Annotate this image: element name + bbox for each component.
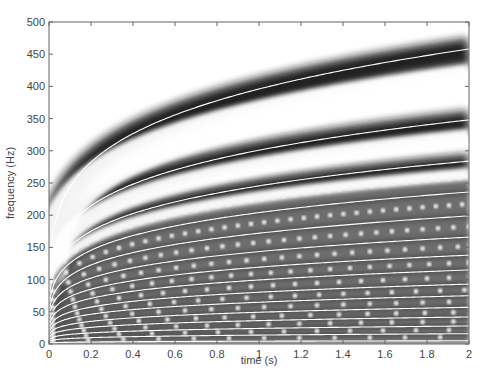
harmonic-dot [447, 328, 452, 333]
harmonic-dot [282, 329, 287, 334]
x-tick-label: 0.8 [209, 348, 224, 360]
harmonic-dot [456, 244, 461, 249]
harmonic-dot [438, 288, 443, 293]
harmonic-dot [414, 179, 419, 184]
y-tick-label: 0 [39, 338, 45, 350]
harmonic-dot [196, 298, 201, 303]
harmonic-dot [269, 271, 274, 276]
harmonic-dot [337, 187, 342, 192]
harmonic-dot [315, 253, 320, 258]
harmonic-dot [403, 180, 408, 185]
harmonic-dot [269, 294, 274, 299]
y-tick-label: 500 [27, 16, 45, 28]
harmonic-dot [403, 335, 408, 340]
harmonic-dot [71, 297, 76, 302]
harmonic-dot [365, 291, 370, 296]
y-tick-label: 250 [27, 177, 45, 189]
harmonic-dot [77, 317, 82, 322]
harmonic-dot [365, 312, 370, 317]
harmonic-dot [227, 286, 232, 291]
x-axis-label: time (s) [241, 354, 278, 366]
x-tick-label: 1.2 [293, 348, 308, 360]
harmonic-dot [170, 279, 175, 284]
harmonic-dot [112, 262, 117, 267]
harmonic-dot [315, 214, 320, 219]
harmonic-dot [128, 223, 133, 228]
harmonic-dot [251, 314, 256, 319]
harmonic-dot [359, 321, 364, 326]
harmonic-dot [436, 177, 441, 182]
harmonic-dot [161, 291, 166, 296]
harmonic-dot [249, 284, 254, 289]
harmonic-dot [293, 192, 298, 197]
harmonic-dot [236, 223, 241, 228]
harmonic-dot [282, 194, 287, 199]
harmonic-dot [297, 254, 302, 259]
harmonic-dot [381, 278, 386, 283]
harmonic-dot [354, 211, 359, 216]
harmonic-dot [275, 218, 280, 223]
harmonic-dot [161, 214, 166, 219]
harmonic-dot [308, 313, 313, 318]
harmonic-dot [271, 283, 276, 288]
harmonic-dot [390, 320, 395, 325]
harmonic-dot [293, 282, 298, 287]
harmonic-dot [75, 311, 80, 316]
harmonic-dot [368, 265, 373, 270]
harmonic-dot [227, 336, 232, 341]
harmonic-dot [368, 335, 373, 340]
harmonic-dot [447, 261, 452, 266]
harmonic-dot [328, 321, 333, 326]
spectrogram-chart: 00.20.40.60.811.21.41.61.82 050100150200… [0, 0, 487, 385]
harmonic-dot [117, 227, 122, 232]
harmonic-dot [205, 287, 210, 292]
harmonic-dot [216, 330, 221, 335]
harmonic-dot [174, 266, 179, 271]
harmonic-dot [196, 229, 201, 234]
harmonic-dot [280, 314, 285, 319]
harmonic-dot [222, 225, 227, 230]
harmonic-dot [403, 247, 408, 252]
harmonic-dot [394, 311, 399, 316]
harmonic-dot [189, 248, 194, 253]
harmonic-dot [313, 235, 318, 240]
harmonic-dot [183, 231, 188, 236]
y-tick-label: 50 [33, 306, 45, 318]
harmonic-dot [368, 249, 373, 254]
harmonic-dot [427, 262, 432, 267]
harmonic-dot [150, 331, 155, 336]
harmonic-dot [121, 274, 126, 279]
harmonic-dot [205, 323, 210, 328]
harmonic-dot [150, 281, 155, 286]
harmonic-dot [189, 277, 194, 282]
harmonic-dot [220, 244, 225, 249]
harmonic-dot [106, 231, 111, 236]
harmonic-dot [128, 259, 133, 264]
harmonic-dot [183, 331, 188, 336]
harmonic-dot [304, 191, 309, 196]
harmonic-dot [332, 336, 337, 341]
harmonic-dot [328, 213, 333, 218]
harmonic-dot [315, 329, 320, 334]
harmonic-dot [462, 288, 467, 293]
harmonic-dot [390, 290, 395, 295]
harmonic-dot [381, 208, 386, 213]
harmonic-dot [79, 323, 84, 328]
harmonic-dot [381, 328, 386, 333]
harmonic-dot [236, 323, 241, 328]
harmonic-dot [192, 263, 197, 268]
harmonic-dot [236, 242, 241, 247]
harmonic-dot [84, 241, 89, 246]
harmonic-dot [326, 188, 331, 193]
harmonic-dot [249, 272, 254, 277]
harmonic-dot [315, 281, 320, 286]
harmonic-dot [174, 324, 179, 329]
harmonic-dot [403, 277, 408, 282]
harmonic-dot [90, 291, 95, 296]
harmonic-dot [282, 238, 287, 243]
x-tick-label: 0 [46, 348, 52, 360]
harmonic-dot [288, 304, 293, 309]
harmonic-dot [249, 198, 254, 203]
harmonic-dot [315, 189, 320, 194]
y-tick-label: 400 [27, 80, 45, 92]
